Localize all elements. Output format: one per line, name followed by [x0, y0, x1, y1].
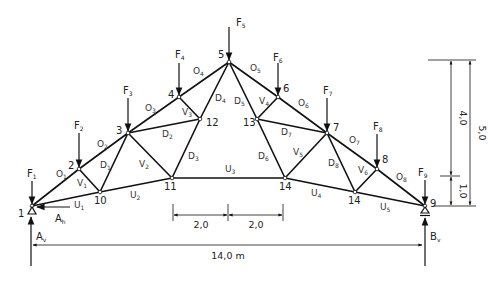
label-v5: V5 — [293, 147, 303, 158]
label-ah: Ah — [55, 213, 66, 225]
label-d4: D4 — [215, 93, 226, 104]
joint-14b — [353, 190, 357, 194]
height-lower-label: 1,0 — [458, 183, 469, 198]
joint-12 — [198, 117, 202, 121]
node-label-12: 12 — [206, 117, 219, 128]
label-f2: F2 — [74, 120, 84, 132]
support-a-pinned — [28, 207, 36, 214]
label-o2: O2 — [97, 139, 108, 150]
member-u4 — [285, 178, 355, 192]
label-d8: D8 — [328, 158, 339, 169]
label-f5: F5 — [236, 17, 246, 29]
span-label: 14,0 m — [211, 250, 244, 261]
member-u1 — [32, 192, 100, 206]
label-f6: F6 — [273, 52, 283, 64]
joint-10 — [98, 190, 102, 194]
dimension-labels: 14,0 m 2,0 2,0 4,0 1,0 5,0 — [193, 110, 488, 261]
member-o4 — [179, 62, 229, 97]
label-o8: O8 — [396, 172, 407, 183]
truss-members — [32, 62, 425, 206]
dimensions — [33, 60, 476, 245]
label-d5: D5 — [234, 96, 245, 107]
node-label-9: 9 — [430, 198, 436, 209]
label-u4: U4 — [311, 188, 322, 199]
label-v6: V6 — [358, 165, 368, 176]
joint-14a — [283, 176, 287, 180]
joint-4 — [177, 95, 181, 99]
seg-left-label: 2,0 — [193, 219, 208, 230]
label-o6: O6 — [298, 98, 309, 109]
node-label-5: 5 — [218, 49, 224, 60]
label-d2: D2 — [162, 129, 173, 140]
label-d1: D1 — [100, 160, 111, 171]
truss-diagram: 1 2 3 4 5 6 7 8 9 10 11 12 13 14 14 O1 O… — [0, 0, 500, 283]
member-d4 — [200, 62, 229, 119]
node-label-10: 10 — [94, 195, 107, 206]
reaction-labels: Av Ah Bv — [36, 213, 441, 243]
height-upper-label: 4,0 — [458, 110, 469, 125]
seg-right-label: 2,0 — [248, 219, 263, 230]
joint-3 — [126, 131, 130, 135]
height-total-label: 5,0 — [477, 125, 488, 140]
label-v4: V4 — [259, 96, 269, 107]
label-u5: U5 — [380, 202, 391, 213]
node-label-2: 2 — [68, 160, 74, 171]
label-o4: O4 — [193, 66, 204, 77]
node-label-14a: 14 — [279, 181, 292, 192]
joint-6 — [276, 95, 280, 99]
node-label-6: 6 — [283, 83, 289, 94]
joint-8 — [375, 167, 379, 171]
node-label-3: 3 — [116, 125, 122, 136]
node-label-7: 7 — [333, 122, 339, 133]
label-u1: U1 — [74, 200, 85, 211]
label-o7: O7 — [349, 135, 360, 146]
truss-joints — [30, 60, 427, 208]
support-b-roller — [420, 207, 430, 216]
joint-11 — [170, 176, 174, 180]
node-label-11: 11 — [164, 181, 177, 192]
label-o1: O1 — [56, 169, 67, 180]
label-f1: F1 — [27, 168, 37, 180]
label-f8: F8 — [373, 121, 383, 133]
label-f9: F9 — [418, 167, 428, 179]
label-o5: O5 — [250, 63, 261, 74]
joint-2 — [77, 167, 81, 171]
label-av: Av — [36, 231, 47, 243]
member-v2 — [128, 133, 172, 178]
node-label-14b: 14 — [348, 195, 361, 206]
label-d7: D7 — [281, 127, 292, 138]
label-v2: V2 — [139, 159, 149, 170]
joint-7 — [325, 131, 329, 135]
label-f4: F4 — [175, 49, 185, 61]
node-label-13: 13 — [243, 117, 256, 128]
label-d6: D6 — [258, 151, 269, 162]
label-d3: D3 — [188, 151, 199, 162]
label-u3: U3 — [225, 164, 236, 175]
member-v5 — [285, 133, 327, 178]
label-o3: O3 — [145, 103, 156, 114]
joint-13 — [255, 117, 259, 121]
label-v1: V1 — [77, 178, 87, 189]
label-bv: Bv — [430, 231, 441, 243]
node-labels: 1 2 3 4 5 6 7 8 9 10 11 12 13 14 14 — [18, 49, 436, 219]
load-labels: F1 F2 F3 F4 F5 F6 F7 F8 F9 — [27, 17, 428, 180]
node-label-1: 1 — [18, 208, 24, 219]
roller-support-icon — [421, 207, 429, 213]
label-u2: U2 — [130, 190, 141, 201]
joint-5 — [227, 60, 231, 64]
node-label-4: 4 — [168, 89, 174, 100]
label-f3: F3 — [123, 85, 133, 97]
node-label-8: 8 — [382, 154, 388, 165]
label-f7: F7 — [323, 85, 333, 97]
member-d3 — [172, 119, 200, 178]
pinned-support-icon — [28, 207, 36, 214]
member-u5 — [355, 192, 425, 206]
